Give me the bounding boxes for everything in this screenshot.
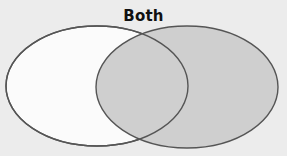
intersection-label: Both	[0, 7, 287, 25]
right-set-ellipse	[96, 26, 278, 148]
